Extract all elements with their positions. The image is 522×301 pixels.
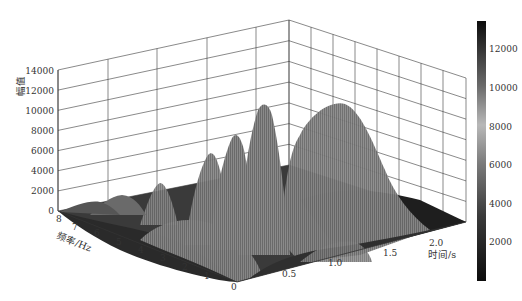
surface-chart: 0 2000 4000 6000 8000 10000 12000 14000 … <box>0 0 522 301</box>
svg-text:2.0: 2.0 <box>429 238 444 248</box>
svg-text:5: 5 <box>116 237 122 247</box>
svg-text:0.5: 0.5 <box>282 269 297 279</box>
svg-text:0: 0 <box>48 206 54 216</box>
svg-text:3: 3 <box>160 253 166 263</box>
svg-text:1.0: 1.0 <box>328 258 343 268</box>
svg-text:1.5: 1.5 <box>383 248 398 258</box>
svg-text:8: 8 <box>56 214 62 224</box>
svg-text:10000: 10000 <box>25 106 54 116</box>
time-axis-label: 时间/s <box>428 249 456 260</box>
svg-text:8000: 8000 <box>489 122 512 132</box>
svg-text:2000: 2000 <box>31 186 54 196</box>
svg-text:12000: 12000 <box>489 44 518 54</box>
svg-text:2: 2 <box>182 262 188 272</box>
freq-axis-label: 频率/Hz <box>55 230 93 254</box>
surface <box>58 103 466 282</box>
svg-text:8000: 8000 <box>31 126 54 136</box>
colorbar: 12000 10000 8000 6000 4000 2000 <box>477 21 518 281</box>
svg-text:0: 0 <box>231 282 237 292</box>
svg-text:12000: 12000 <box>25 86 54 96</box>
svg-text:4: 4 <box>138 245 144 255</box>
svg-text:6000: 6000 <box>31 146 54 156</box>
z-axis: 0 2000 4000 6000 8000 10000 12000 14000 … <box>15 66 54 216</box>
svg-text:4000: 4000 <box>489 199 512 209</box>
svg-text:7: 7 <box>72 222 78 232</box>
z-axis-label: 幅值 <box>15 76 26 96</box>
svg-text:4000: 4000 <box>31 166 54 176</box>
svg-text:6000: 6000 <box>489 160 512 170</box>
svg-text:10000: 10000 <box>489 83 518 93</box>
svg-text:14000: 14000 <box>25 66 54 76</box>
svg-text:1: 1 <box>204 271 210 281</box>
svg-text:2000: 2000 <box>489 237 512 247</box>
svg-text:6: 6 <box>94 228 100 238</box>
